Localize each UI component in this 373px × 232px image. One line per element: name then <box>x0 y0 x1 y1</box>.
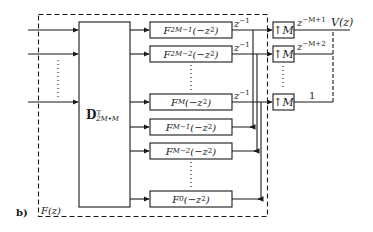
output-label-vz: V(z) <box>331 17 353 28</box>
filter-f-0: F0(−z2) <box>150 191 232 207</box>
upsampler-0: ↑M <box>273 22 294 38</box>
upsampler-out-label-1: z−M+2 <box>297 41 326 52</box>
filter-f-2m-2: F2M−2(−z2) <box>150 46 232 62</box>
delay-label-0: z−1 <box>234 18 250 29</box>
upsampler-1: ↑M <box>273 46 294 62</box>
upsampler-2: ↑M <box>273 94 294 110</box>
filter-f-m-1: FM−1(−z2) <box>150 119 232 135</box>
panel-label: b) <box>16 208 28 218</box>
d-matrix-label: DT2M•M <box>86 108 119 123</box>
system-label-fz: F(z) <box>40 206 62 216</box>
upsampler-out-label-0: z−M+1 <box>297 17 326 28</box>
upsampler-out-label-2: 1 <box>309 91 315 101</box>
filter-f-m: FM(−z2) <box>150 94 232 110</box>
filter-f-m-2: FM−2(−z2) <box>150 143 232 159</box>
delay-label-1: z−1 <box>234 42 250 53</box>
filter-f-2m-1: F2M−1(−z2) <box>150 22 232 38</box>
delay-label-2: z−1 <box>234 90 250 101</box>
